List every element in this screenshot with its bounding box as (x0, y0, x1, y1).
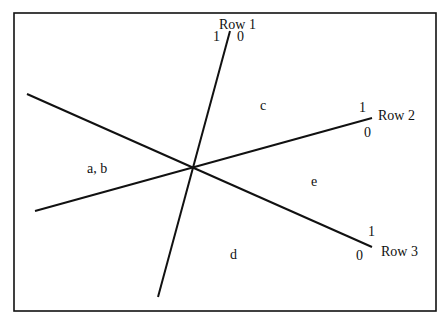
row-3-line (27, 94, 372, 247)
region-c-label: c (260, 98, 266, 113)
region-d-label: d (230, 247, 237, 262)
row-1-one-label: 1 (213, 29, 220, 44)
diagram-frame (14, 13, 436, 311)
row-2-label: Row 2 (378, 108, 415, 123)
row-1-line (158, 31, 230, 297)
row-3-label: Row 3 (381, 244, 418, 259)
row-1-zero-label: 0 (237, 29, 244, 44)
row-2-zero-label: 0 (364, 125, 371, 140)
region-ab-label: a, b (87, 161, 107, 176)
row-2-one-label: 1 (359, 100, 366, 115)
hyperplane-diagram: Row 1 1 0 1 Row 2 0 1 0 Row 3 c a, b e d (0, 0, 446, 327)
row-3-one-label: 1 (368, 224, 375, 239)
region-e-label: e (311, 174, 317, 189)
row-3-zero-label: 0 (356, 248, 363, 263)
